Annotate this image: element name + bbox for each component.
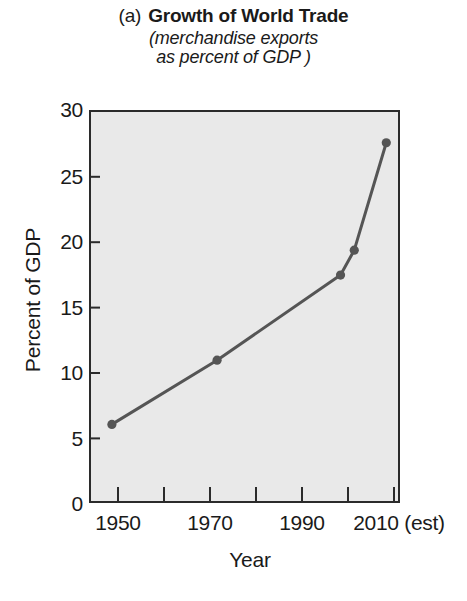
x-axis-title: Year	[229, 548, 271, 572]
x-tick-label-2010: 2010 (est)	[353, 512, 445, 533]
y-axis-title: Percent of GDP	[21, 228, 45, 372]
x-axis-tick-labels: 1950 1970 1990 2010 (est)	[0, 0, 467, 601]
x-tick-label-1970: 1970	[187, 512, 233, 533]
figure-panel: (a)Growth of World Trade (merchandise ex…	[0, 0, 467, 601]
x-tick-label-1950: 1950	[95, 512, 141, 533]
x-tick-label-1990: 1990	[279, 512, 325, 533]
